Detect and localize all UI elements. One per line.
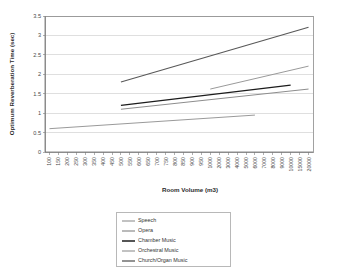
x-tick-label: 3000: [225, 157, 231, 169]
x-tick-label: 500: [118, 157, 124, 166]
x-tick-label-group: 1001502002503003504004505005506006507007…: [46, 152, 311, 171]
x-tick-label: 600: [136, 157, 142, 166]
x-tick-label: 300: [82, 157, 88, 166]
x-axis-title: Room Volume (m3): [162, 186, 218, 193]
x-tick-label: 400: [100, 157, 106, 166]
x-tick-label: 10000: [288, 157, 294, 172]
legend-label[interactable]: Opera: [138, 227, 153, 233]
y-tick-label-group: 00.511.522.533.5: [33, 13, 45, 155]
x-tick-label: 350: [91, 157, 97, 166]
plot-background: [45, 16, 313, 152]
x-tick-label: 5000: [243, 157, 249, 169]
chart-canvas: 00.511.522.533.5 10015020025030035040045…: [0, 0, 348, 277]
legend-label[interactable]: Chamber Music: [138, 237, 176, 243]
x-tick-label: 8000: [270, 157, 276, 169]
legend-label[interactable]: Church/Organ Music: [138, 257, 188, 263]
x-tick-label: 800: [172, 157, 178, 166]
x-tick-label: 20000: [306, 157, 312, 172]
x-tick-label: 150: [55, 157, 61, 166]
chart-legend: SpeechOperaChamber MusicOrchestral Music…: [116, 212, 230, 266]
y-tick-label: 3.5: [33, 13, 41, 19]
x-tick-label: 7000: [261, 157, 267, 169]
y-tick-label: 0: [38, 149, 41, 155]
reverberation-time-chart: 00.511.522.533.5 10015020025030035040045…: [0, 0, 348, 277]
y-tick-label: 2: [38, 71, 41, 77]
legend-label[interactable]: Orchestral Music: [138, 247, 179, 253]
y-tick-label: 1: [38, 110, 41, 116]
y-tick-label: 1.5: [33, 91, 41, 97]
x-tick-label: 250: [73, 157, 79, 166]
x-tick-label: 9000: [279, 157, 285, 169]
y-tick-label: 3: [38, 32, 41, 38]
legend-label[interactable]: Speech: [138, 217, 156, 223]
x-tick-label: 200: [64, 157, 70, 166]
x-tick-label: 850: [180, 157, 186, 166]
x-tick-label: 950: [198, 157, 204, 166]
x-tick-label: 4000: [234, 157, 240, 169]
x-tick-label: 550: [127, 157, 133, 166]
x-tick-label: 15000: [297, 157, 303, 172]
x-tick-label: 2000: [216, 157, 222, 169]
x-tick-label: 650: [145, 157, 151, 166]
x-tick-label: 700: [154, 157, 160, 166]
x-tick-label: 750: [163, 157, 169, 166]
x-tick-label: 100: [46, 157, 52, 166]
x-tick-label: 900: [189, 157, 195, 166]
y-tick-label: 2.5: [33, 52, 41, 58]
x-tick-label: 450: [109, 157, 115, 166]
x-tick-label: 1000: [207, 157, 213, 169]
y-axis-title: Optimum Reverberation Time (sec): [8, 33, 15, 136]
x-tick-label: 6000: [252, 157, 258, 169]
y-tick-label: 0.5: [33, 130, 41, 136]
